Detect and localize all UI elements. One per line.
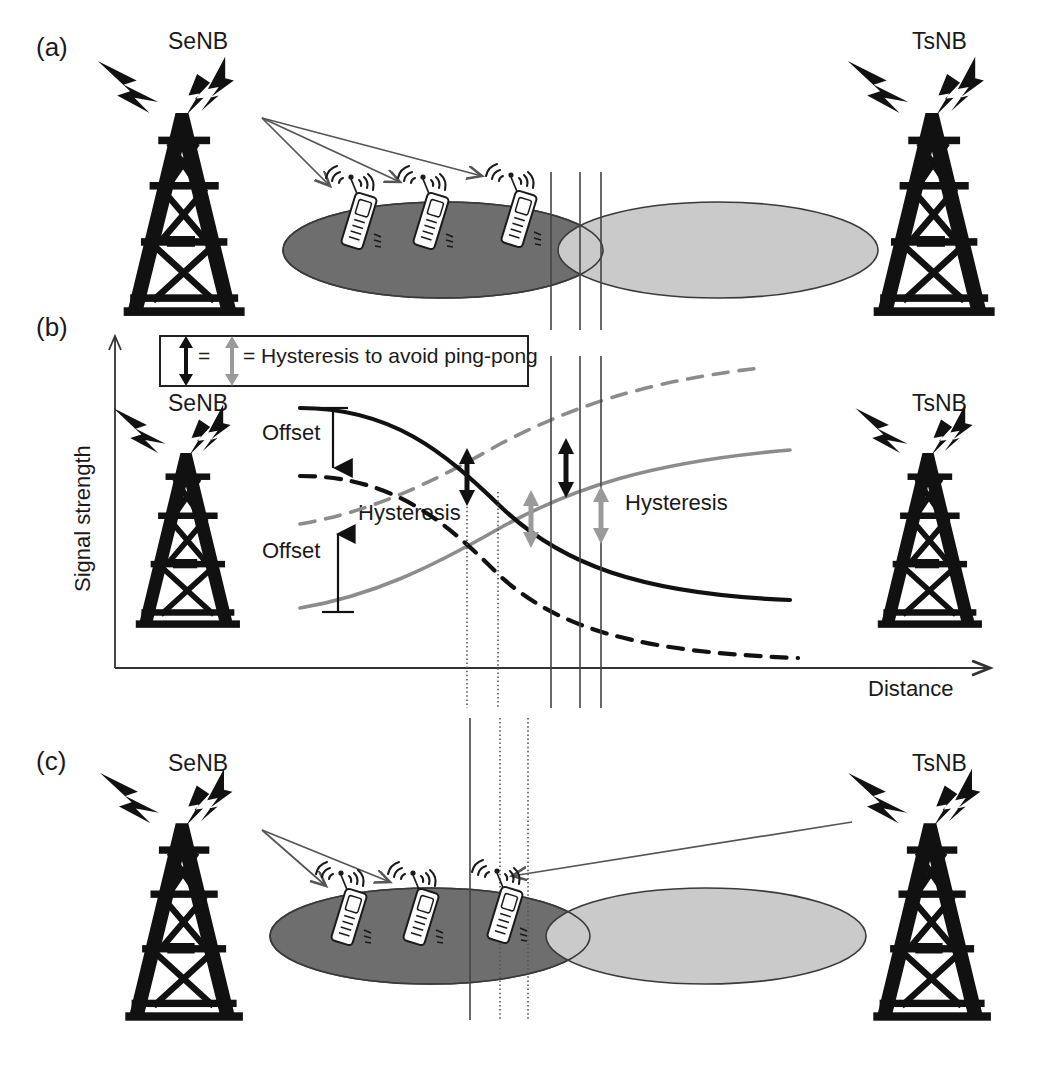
panel-b-graphic xyxy=(0,316,1050,716)
panel-c-handover-arrow xyxy=(512,822,852,876)
panel-c-tsnb-tower xyxy=(848,769,991,1021)
hysteresis-gray-arrow-left xyxy=(523,490,539,548)
panel-c-senb-tower xyxy=(100,769,243,1021)
offset-top-arrow xyxy=(318,408,348,468)
legend-gray-double-arrow xyxy=(225,336,239,386)
panel-a-senb-tower xyxy=(98,57,245,316)
panel-a-arrow-2 xyxy=(262,118,400,182)
hysteresis-gray-arrow-right xyxy=(593,486,609,544)
panel-c-target-cell xyxy=(546,888,866,984)
panel-a-arrow-3 xyxy=(262,118,482,176)
panel-c-arrow-2 xyxy=(262,830,390,882)
panel-a-graphic xyxy=(0,0,1050,330)
offset-bottom-arrow xyxy=(322,534,354,612)
panel-a-tsnb-tower xyxy=(848,57,995,316)
panel-c-arrow-1 xyxy=(262,830,326,886)
panel-a-arrow-1 xyxy=(262,118,330,186)
hysteresis-black-arrow-left xyxy=(459,448,475,506)
curve-tsnb xyxy=(300,450,790,608)
panel-b-tsnb-tower xyxy=(855,405,981,628)
hysteresis-black-arrow-right xyxy=(558,438,574,498)
panel-a-target-cell xyxy=(558,202,878,298)
legend-black-double-arrow xyxy=(179,336,193,386)
figure-root: (a) SeNB TsNB xyxy=(0,0,1050,1068)
legend-box xyxy=(160,336,528,386)
panel-c-graphic xyxy=(0,718,1050,1068)
panel-b-senb-tower xyxy=(113,405,239,628)
